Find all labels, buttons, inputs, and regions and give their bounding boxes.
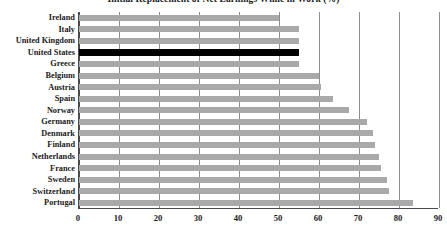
bar-row bbox=[79, 128, 439, 139]
bar-greece bbox=[79, 61, 299, 67]
y-axis-label-belgium: Belgium bbox=[0, 70, 75, 81]
bar-italy bbox=[79, 26, 299, 32]
bar-finland bbox=[79, 142, 375, 148]
y-axis-label-united-states: United States bbox=[0, 47, 75, 58]
bar-row bbox=[79, 186, 439, 197]
y-axis-label-greece: Greece bbox=[0, 58, 75, 69]
x-axis-tick-labels: 0102030405060708090 bbox=[78, 213, 438, 229]
plot-area bbox=[78, 12, 438, 209]
y-axis-label-switzerland: Switzerland bbox=[0, 186, 75, 197]
bar-row bbox=[79, 116, 439, 127]
bar-row bbox=[79, 70, 439, 81]
y-axis-label-finland: Finland bbox=[0, 139, 75, 150]
x-tick-40: 40 bbox=[234, 213, 243, 223]
x-tick-60: 60 bbox=[314, 213, 323, 223]
y-axis-label-germany: Germany bbox=[0, 116, 75, 127]
x-tick-0: 0 bbox=[76, 213, 80, 223]
bar-row bbox=[79, 82, 439, 93]
y-axis-label-italy: Italy bbox=[0, 24, 75, 35]
y-axis-label-france: France bbox=[0, 163, 75, 174]
bar-row bbox=[79, 35, 439, 46]
bar-row bbox=[79, 139, 439, 150]
bar-row bbox=[79, 163, 439, 174]
y-axis-label-netherlands: Netherlands bbox=[0, 151, 75, 162]
bar-row bbox=[79, 93, 439, 104]
bar-row bbox=[79, 174, 439, 185]
y-axis-label-sweden: Sweden bbox=[0, 174, 75, 185]
y-axis-label-denmark: Denmark bbox=[0, 128, 75, 139]
x-tick-70: 70 bbox=[354, 213, 363, 223]
bar-austria bbox=[79, 84, 321, 90]
bar-germany bbox=[79, 119, 367, 125]
bar-denmark bbox=[79, 130, 373, 136]
bar-united-states bbox=[79, 49, 299, 56]
bar-row bbox=[79, 47, 439, 58]
bar-spain bbox=[79, 96, 333, 102]
bar-united-kingdom bbox=[79, 38, 299, 44]
bar-netherlands bbox=[79, 154, 379, 160]
bar-portugal bbox=[79, 200, 413, 206]
x-tick-80: 80 bbox=[394, 213, 403, 223]
bar-row bbox=[79, 151, 439, 162]
y-axis-label-portugal: Portugal bbox=[0, 197, 75, 208]
bar-row bbox=[79, 197, 439, 208]
x-tick-50: 50 bbox=[274, 213, 283, 223]
chart-container: Initial Replacement of Net Earnings Whil… bbox=[0, 0, 447, 241]
bar-ireland bbox=[79, 15, 279, 21]
bar-row bbox=[79, 12, 439, 23]
bar-row bbox=[79, 105, 439, 116]
x-tick-20: 20 bbox=[154, 213, 163, 223]
x-tick-10: 10 bbox=[114, 213, 123, 223]
x-tick-90: 90 bbox=[434, 213, 443, 223]
gridline-90 bbox=[439, 12, 440, 208]
bar-row bbox=[79, 24, 439, 35]
bar-row bbox=[79, 58, 439, 69]
bar-switzerland bbox=[79, 188, 389, 194]
chart-title: Initial Replacement of Net Earnings Whil… bbox=[0, 0, 447, 4]
bar-norway bbox=[79, 107, 349, 113]
y-axis-label-norway: Norway bbox=[0, 105, 75, 116]
y-axis-label-united-kingdom: United Kingdom bbox=[0, 35, 75, 46]
y-axis-label-austria: Austria bbox=[0, 82, 75, 93]
bar-sweden bbox=[79, 177, 387, 183]
bar-series bbox=[79, 12, 438, 208]
y-axis-label-spain: Spain bbox=[0, 93, 75, 104]
x-tick-30: 30 bbox=[194, 213, 203, 223]
bar-france bbox=[79, 165, 381, 171]
y-axis-label-ireland: Ireland bbox=[0, 12, 75, 23]
bar-belgium bbox=[79, 73, 319, 79]
y-axis-category-labels: IrelandItalyUnited KingdomUnited StatesG… bbox=[0, 12, 75, 209]
